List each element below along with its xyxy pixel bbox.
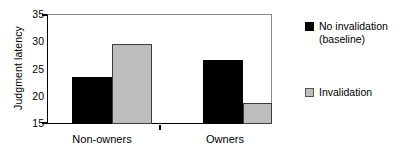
bar-owners-no-invalidation <box>203 60 243 124</box>
x-axis-group-separator-tick <box>159 125 161 130</box>
legend-label-invalidation: Invalidation <box>319 86 372 99</box>
black-square-icon <box>305 22 314 31</box>
y-tick-label-30: 30 <box>22 36 44 47</box>
bar-non-owners-invalidation <box>112 44 152 124</box>
legend-item-no-invalidation[interactable]: No invalidation (baseline) <box>305 20 388 45</box>
y-axis-tick-labels: 35 30 25 20 15 <box>22 0 44 163</box>
bar-owners-invalidation <box>243 103 272 124</box>
bars-layer <box>47 14 272 124</box>
y-tick-label-25: 25 <box>22 64 44 75</box>
legend-item-invalidation[interactable]: Invalidation <box>305 86 372 99</box>
y-tick-label-15: 15 <box>22 118 44 129</box>
x-axis-label-owners: Owners <box>180 133 270 145</box>
y-tick-label-35: 35 <box>22 9 44 20</box>
x-axis-label-non-owners: Non-owners <box>52 133 152 145</box>
gray-square-icon <box>305 88 314 97</box>
bar-non-owners-no-invalidation <box>72 77 112 124</box>
y-tick-label-20: 20 <box>22 91 44 102</box>
legend-label-no-invalidation: No invalidation (baseline) <box>319 20 388 45</box>
chart-screenshot: Judgment latency 35 30 25 20 15 Non-owne… <box>0 0 409 163</box>
